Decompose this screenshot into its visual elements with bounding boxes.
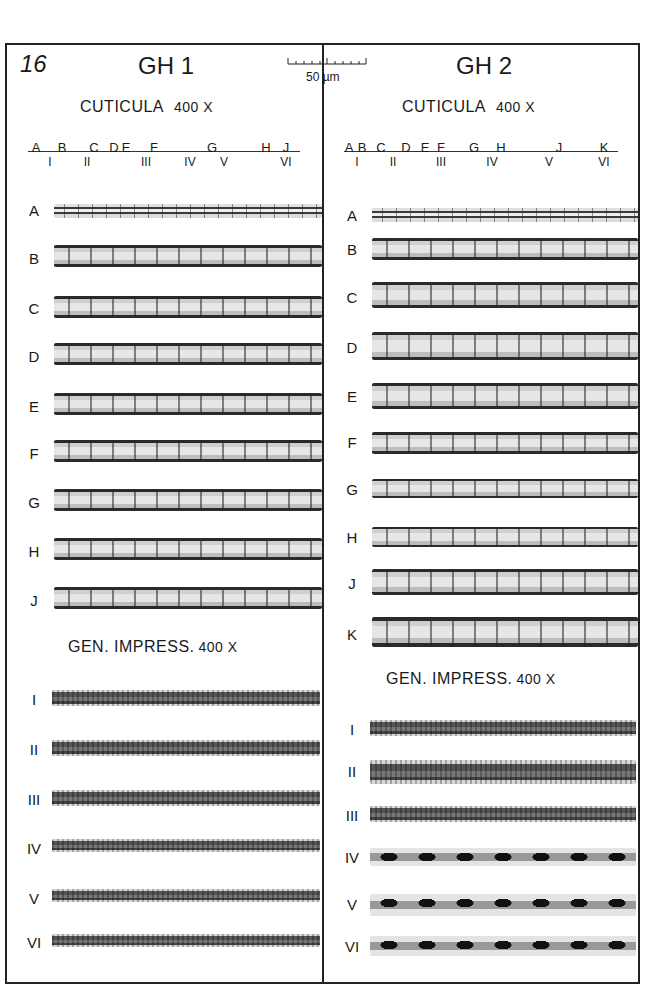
sample-label: A <box>340 207 364 224</box>
impression-micrograph <box>370 806 636 822</box>
sample-label: G <box>340 481 364 498</box>
hair-micrograph <box>54 489 322 511</box>
impression-micrograph <box>370 848 636 866</box>
scale-bar-label: 50 µm <box>306 70 340 84</box>
sample-label: V <box>22 890 46 907</box>
axis-tick-label: A <box>32 140 41 155</box>
sample-label: V <box>340 896 364 913</box>
impression-micrograph <box>370 936 636 956</box>
axis-tick-label: VI <box>280 155 291 169</box>
gh2-sample-axis: A B C D E F G H J K I II III IV V VI <box>344 132 618 172</box>
hair-micrograph <box>54 538 322 560</box>
impression-micrograph <box>52 839 320 852</box>
magnification-label: 400 X <box>517 671 556 687</box>
hair-micrograph <box>54 587 322 609</box>
magnification-label: 400 X <box>174 99 213 115</box>
sample-label: II <box>22 741 46 758</box>
axis-tick-label: B <box>58 140 67 155</box>
sample-label: H <box>340 529 364 546</box>
impression-micrograph <box>370 760 636 784</box>
hair-micrograph <box>54 245 322 267</box>
section-label: GEN. IMPRESS. <box>68 638 195 655</box>
axis-tick-label: H <box>496 140 505 155</box>
sample-label: F <box>340 434 364 451</box>
section-label: GEN. IMPRESS. <box>386 670 513 687</box>
magnification-label: 400 X <box>199 639 238 655</box>
sample-label: C <box>340 289 364 306</box>
hair-micrograph <box>54 343 322 365</box>
column-divider <box>322 43 324 984</box>
sample-label: J <box>340 575 364 592</box>
axis-tick-label: F <box>437 140 445 155</box>
axis-tick-label: I <box>48 155 51 169</box>
axis-tick-label: IV <box>184 155 195 169</box>
axis-tick-label: J <box>283 140 290 155</box>
gh2-impression-title: GEN. IMPRESS.400 X <box>386 670 556 688</box>
impression-micrograph <box>370 720 636 736</box>
impression-micrograph <box>52 934 320 947</box>
hair-micrograph <box>372 282 638 308</box>
axis-tick-label: E <box>122 140 131 155</box>
axis-tick-label: IV <box>486 155 497 169</box>
sample-label: A <box>22 202 46 219</box>
hair-micrograph <box>372 617 638 647</box>
sample-label: E <box>340 388 364 405</box>
hair-micrograph <box>54 296 322 318</box>
axis-tick-label: V <box>220 155 228 169</box>
hair-micrograph <box>372 432 638 454</box>
hair-micrograph <box>372 383 638 409</box>
axis-tick-label: III <box>141 155 151 169</box>
axis-tick-label: I <box>355 155 358 169</box>
axis-tick-label: C <box>376 140 385 155</box>
axis-tick-label: D <box>109 140 118 155</box>
scale-bar-icon <box>287 52 367 66</box>
axis-tick-label: F <box>150 140 158 155</box>
sample-label: VI <box>340 938 364 955</box>
axis-tick-label: E <box>421 140 430 155</box>
magnification-label: 400 X <box>496 99 535 115</box>
sample-label: II <box>340 763 364 780</box>
hair-micrograph <box>372 208 638 222</box>
sample-label: D <box>22 348 46 365</box>
impression-micrograph <box>52 740 320 756</box>
sample-label: III <box>340 807 364 824</box>
sample-label: III <box>22 791 46 808</box>
section-label: CUTICULA <box>80 98 164 115</box>
section-label: CUTICULA <box>402 98 486 115</box>
gh1-impression-title: GEN. IMPRESS.400 X <box>68 638 238 656</box>
sample-label: VI <box>22 934 46 951</box>
hair-micrograph <box>372 332 638 360</box>
axis-tick-label: V <box>545 155 553 169</box>
axis-tick-label: II <box>390 155 397 169</box>
axis-tick-label: II <box>84 155 91 169</box>
axis-tick-label: D <box>401 140 410 155</box>
impression-micrograph <box>52 790 320 806</box>
plate-number: 16 <box>20 50 47 78</box>
sample-label: B <box>340 241 364 258</box>
hair-micrograph <box>372 527 638 547</box>
hair-micrograph <box>54 393 322 415</box>
axis-tick-label: VI <box>598 155 609 169</box>
hair-micrograph <box>54 204 322 218</box>
axis-tick-label: K <box>600 140 609 155</box>
axis-tick-label: A <box>345 140 354 155</box>
impression-micrograph <box>52 690 320 706</box>
column-title-gh1: GH 1 <box>138 52 194 80</box>
sample-label: I <box>22 691 46 708</box>
gh1-sample-axis: A B C D E F G H J I II III IV V VI <box>28 132 300 172</box>
hair-micrograph <box>372 479 638 498</box>
sample-label: D <box>340 339 364 356</box>
sample-label: I <box>340 721 364 738</box>
sample-label: J <box>22 592 46 609</box>
column-title-gh2: GH 2 <box>456 52 512 80</box>
sample-label: C <box>22 300 46 317</box>
axis-tick-label: J <box>556 140 563 155</box>
hair-micrograph <box>372 238 638 260</box>
sample-label: B <box>22 250 46 267</box>
impression-micrograph <box>370 894 636 916</box>
sample-label: K <box>340 626 364 643</box>
sample-label: IV <box>22 840 46 857</box>
axis-tick-label: B <box>358 140 367 155</box>
axis-tick-label: C <box>89 140 98 155</box>
hair-micrograph <box>372 569 638 595</box>
